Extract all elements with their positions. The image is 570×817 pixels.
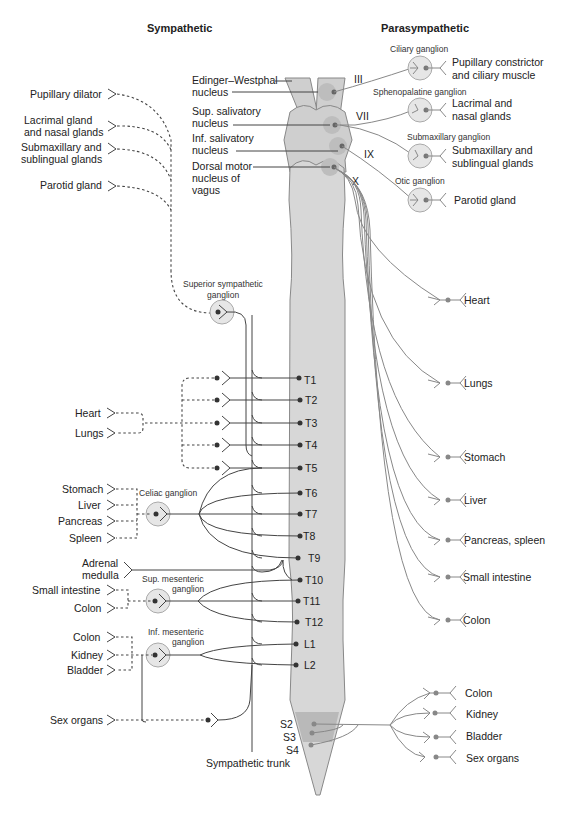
svg-text:sublingual glands: sublingual glands (21, 153, 102, 165)
sacral-target-kidney: Kidney (466, 708, 499, 720)
para-target-stomach: Stomach (464, 451, 506, 463)
segment-t8: T8 (303, 530, 315, 542)
cranial-nerve-iii: III (354, 73, 363, 85)
symp-target-colon-sup: Colon (74, 602, 102, 614)
segment-l1: L1 (304, 638, 316, 650)
svg-text:Inf. mesenteric: Inf. mesenteric (148, 627, 204, 637)
spinal-cord (284, 78, 352, 795)
symp-target-lungs: Lungs (75, 427, 104, 439)
svg-text:nucleus: nucleus (192, 117, 228, 129)
symp-target-lacrimal: Lacrimal gland (24, 114, 92, 126)
svg-text:Celiac ganglion: Celiac ganglion (139, 488, 197, 498)
para-target-heart: Heart (464, 294, 490, 306)
svg-text:and ciliary muscle: and ciliary muscle (452, 69, 536, 81)
symp-target-sex-organs: Sex organs (50, 714, 103, 726)
parasympathetic-vagal-targets: Heart Lungs Stomach Liver Pancreas, sple… (428, 293, 545, 627)
edinger-westphal-label: Edinger–Westphal (192, 74, 278, 86)
segment-t7: T7 (305, 508, 317, 520)
svg-text:nucleus of: nucleus of (192, 172, 240, 184)
segment-t11: T11 (303, 595, 320, 607)
sacral-target-bladder: Bladder (466, 730, 503, 742)
segment-t4: T4 (305, 439, 317, 451)
svg-text:nucleus: nucleus (192, 144, 228, 156)
parotid-gland-label: Parotid gland (454, 194, 516, 206)
sacral-target-sex-organs: Sex organs (466, 752, 519, 764)
symp-target-kidney: Kidney (71, 649, 104, 661)
symp-target-parotid: Parotid gland (40, 179, 102, 191)
para-target-liver: Liver (464, 494, 487, 506)
cranial-nerve-vii: VII (356, 110, 369, 122)
svg-text:nucleus: nucleus (192, 86, 228, 98)
svg-text:sublingual glands: sublingual glands (452, 157, 533, 169)
inf-salivatory-label: Inf. salivatory (192, 132, 255, 144)
cranial-nerve-ix: IX (364, 148, 374, 160)
segment-t5: T5 (305, 462, 317, 474)
segment-s4: S4 (286, 744, 299, 756)
sympathetic-header: Sympathetic (147, 22, 212, 34)
symp-target-liver: Liver (78, 499, 101, 511)
svg-text:ganglion: ganglion (207, 290, 239, 300)
para-target-pancreas-spleen: Pancreas, spleen (464, 534, 545, 546)
pupillary-constrictor-label: Pupillary constrictor (452, 56, 544, 68)
lacrimal-nasal-label: Lacrimal and (452, 97, 512, 109)
svg-text:medulla: medulla (82, 569, 119, 581)
segment-t9: T9 (308, 552, 320, 564)
autonomic-nervous-system-diagram: Sympathetic Parasympathetic Edinger–West… (0, 0, 570, 817)
symp-target-small-intestine: Small intestine (32, 584, 100, 596)
otic-ganglion-label: Otic ganglion (395, 176, 445, 186)
sympathetic-trunk-label: Sympathetic trunk (206, 757, 291, 769)
svg-text:ganglion: ganglion (172, 584, 204, 594)
segment-t3: T3 (305, 417, 317, 429)
segment-s3: S3 (283, 731, 296, 743)
ciliary-ganglion-label: Ciliary ganglion (390, 44, 448, 54)
sup-salivatory-label: Sup. salivatory (192, 105, 262, 117)
sacral-target-colon: Colon (465, 687, 493, 699)
svg-text:vagus: vagus (192, 184, 220, 196)
symp-target-pancreas: Pancreas (58, 515, 102, 527)
symp-target-pupillary-dilator: Pupillary dilator (30, 88, 102, 100)
symp-target-spleen: Spleen (69, 532, 102, 544)
segment-s2: S2 (280, 718, 293, 730)
symp-target-submaxillary: Submaxillary and (21, 141, 102, 153)
sphenopalatine-ganglion-label: Sphenopalatine ganglion (373, 87, 467, 97)
para-target-lungs: Lungs (464, 377, 493, 389)
segment-t6: T6 (305, 487, 317, 499)
symp-target-colon-inf: Colon (73, 631, 101, 643)
symp-target-bladder: Bladder (67, 664, 104, 676)
submaxillary-ganglion-label: Submaxillary ganglion (407, 132, 490, 142)
svg-text:Superior sympathetic: Superior sympathetic (183, 279, 264, 289)
segment-t10: T10 (305, 574, 323, 586)
parasympathetic-header: Parasympathetic (381, 22, 469, 34)
svg-text:nasal glands: nasal glands (452, 110, 511, 122)
sympathetic-head-targets: Pupillary dilator Lacrimal gland and nas… (21, 88, 210, 313)
symp-target-heart: Heart (75, 407, 101, 419)
svg-text:Adrenal: Adrenal (82, 557, 118, 569)
segment-t1: T1 (304, 374, 316, 386)
celiac-ganglion: Celiac ganglion Stomach Liver Pancreas S… (58, 468, 300, 558)
dorsal-motor-vagus-label: Dorsal motor (192, 160, 253, 172)
symp-target-stomach: Stomach (62, 483, 104, 495)
thoracic-outflow: Heart Lungs (75, 370, 300, 475)
segment-t12: T12 (305, 616, 323, 628)
svg-text:and nasal glands: and nasal glands (24, 126, 103, 138)
para-target-colon: Colon (463, 614, 491, 626)
submaxillary-sublingual-label: Submaxillary and (452, 144, 533, 156)
svg-text:ganglion: ganglion (172, 637, 204, 647)
segment-t2: T2 (305, 394, 317, 406)
svg-text:Sup. mesenteric: Sup. mesenteric (142, 574, 204, 584)
inf-mesenteric-ganglion: Inf. mesenteric ganglion Colon Kidney Bl… (67, 627, 296, 676)
segment-l2: L2 (304, 659, 316, 671)
para-target-small-intestine: Small intestine (463, 571, 531, 583)
